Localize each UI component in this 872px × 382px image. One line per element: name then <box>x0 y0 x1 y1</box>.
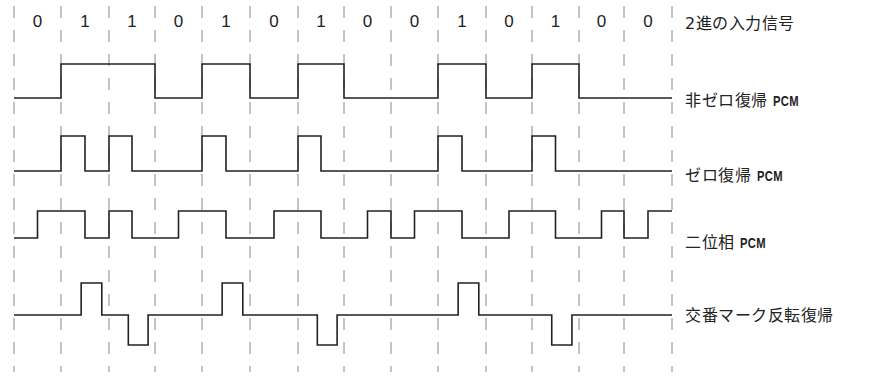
input-bit: 1 <box>80 12 89 31</box>
label-binary-input-text: 2進の入力信号 <box>685 14 795 33</box>
label-nrz: 非ゼロ復帰 PCM <box>685 87 806 111</box>
input-bit: 1 <box>127 12 136 31</box>
label-binary-input: 2進の入力信号 <box>685 10 795 34</box>
label-rz-suffix: PCM <box>757 168 783 184</box>
label-manchester-suffix: PCM <box>740 235 766 251</box>
input-bit: 1 <box>221 12 230 31</box>
label-ami: 交番マーク反転復帰 <box>685 302 834 326</box>
input-bit: 0 <box>643 12 652 31</box>
input-bit: 1 <box>551 12 560 31</box>
label-rz-text: ゼロ復帰 <box>685 166 757 185</box>
input-bit: 1 <box>457 12 466 31</box>
label-nrz-suffix: PCM <box>773 93 799 109</box>
label-manchester-text: 二位相 <box>685 233 740 252</box>
manchester-waveform <box>14 211 672 238</box>
input-bit: 1 <box>316 12 325 31</box>
input-bit: 0 <box>597 12 606 31</box>
input-bit: 0 <box>504 12 513 31</box>
label-rz: ゼロ復帰 PCM <box>685 162 789 186</box>
input-bit: 0 <box>363 12 372 31</box>
label-nrz-text: 非ゼロ復帰 <box>685 91 773 110</box>
input-bit: 0 <box>269 12 278 31</box>
input-bit: 0 <box>174 12 183 31</box>
input-bit: 0 <box>33 12 42 31</box>
bit-boundary-gridlines <box>14 6 672 372</box>
ami-waveform <box>14 283 672 345</box>
nrz-waveform <box>14 64 672 98</box>
label-manchester: 二位相 PCM <box>685 229 773 253</box>
rz-waveform <box>14 136 672 171</box>
input-bit: 0 <box>410 12 419 31</box>
line-coding-diagram: 01101010010100 <box>0 0 680 382</box>
label-ami-text: 交番マーク反転復帰 <box>685 306 834 325</box>
binary-input-bits: 01101010010100 <box>33 12 653 31</box>
